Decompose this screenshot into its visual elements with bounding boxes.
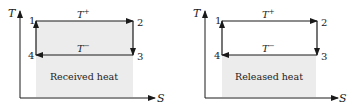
point-2-label: 2 bbox=[321, 17, 327, 28]
s-axis-label: S bbox=[157, 92, 165, 105]
s-axis-label: S bbox=[339, 92, 347, 105]
point-4-label: 4 bbox=[214, 50, 220, 61]
received-heat-region bbox=[36, 21, 133, 97]
t-axis-label: T bbox=[193, 7, 202, 20]
t-plus-label: T+ bbox=[262, 8, 275, 20]
received-heat-label: Received heat bbox=[50, 71, 118, 82]
point-3-label: 3 bbox=[321, 51, 327, 62]
point-1-label: 1 bbox=[29, 15, 35, 26]
t-minus-label: T− bbox=[262, 42, 275, 54]
point-1-label: 1 bbox=[215, 15, 221, 26]
left-diagram: T S 1 2 3 4 T+ T− Received heat bbox=[8, 7, 165, 105]
right-diagram: T S 1 2 3 4 T+ T− Released heat bbox=[193, 7, 347, 105]
point-2-label: 2 bbox=[137, 17, 143, 28]
t-plus-label: T+ bbox=[77, 8, 90, 20]
point-4-label: 4 bbox=[28, 50, 34, 61]
released-heat-label: Released heat bbox=[235, 71, 303, 82]
t-axis-label: T bbox=[8, 7, 17, 20]
point-3-label: 3 bbox=[137, 51, 143, 62]
tt-diagrams: T S 1 2 3 4 T+ T− Received heat T S 1 2 … bbox=[0, 0, 349, 109]
